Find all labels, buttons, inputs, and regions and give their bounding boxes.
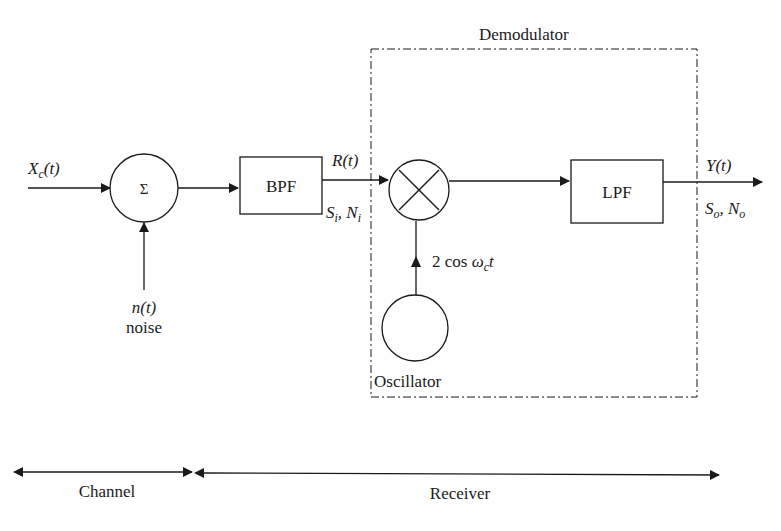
bpf-label: BPF: [266, 177, 296, 196]
noise-label: noise: [126, 318, 162, 337]
oscillator-arrowhead: [411, 256, 421, 267]
output-snr-label: So, No: [705, 199, 745, 221]
output-signal-label: Y(t): [706, 156, 732, 175]
summer-symbol: Σ: [140, 181, 149, 197]
lpf-label: LPF: [602, 183, 631, 202]
channel-label: Channel: [79, 482, 136, 501]
receiver-range-arrow: [203, 473, 719, 475]
input-signal-label: Xc(t): [27, 159, 60, 181]
receiver-label: Receiver: [430, 484, 491, 503]
noise-signal-label: n(t): [132, 298, 157, 317]
oscillator-label: Oscillator: [374, 372, 441, 391]
oscillator-circle: [382, 295, 448, 361]
demodulator-label: Demodulator: [479, 25, 569, 44]
am-receiver-block-diagram: Demodulator Xc(t) Σ n(t) noise BPF R(t) …: [0, 0, 781, 531]
input-snr-label: Si, Ni: [326, 203, 361, 225]
oscillator-signal-label: 2 cos ωct: [432, 252, 495, 274]
bpf-output-signal: R(t): [331, 151, 359, 170]
